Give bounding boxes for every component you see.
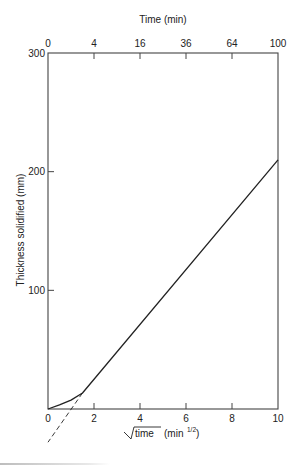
y-axis-title: Thickness solidified (mm) xyxy=(15,174,26,287)
chart: 024681004163664100100200300 Time (min) T… xyxy=(0,0,299,466)
plot-border xyxy=(48,53,278,409)
decorative-bar xyxy=(0,463,110,465)
y-tick-label: 100 xyxy=(28,285,45,296)
top-x-tick-label: 64 xyxy=(226,38,238,49)
x-axis-unit: (min xyxy=(164,428,183,439)
top-x-tick-label: 4 xyxy=(91,38,97,49)
top-x-tick-label: 36 xyxy=(180,38,192,49)
x-tick-label: 6 xyxy=(183,413,189,424)
data-series xyxy=(48,160,278,442)
x-axis-title: time(min1/2) xyxy=(124,426,199,439)
x-axis-unit-exponent: 1/2 xyxy=(187,426,196,433)
top-axis-title: Time (min) xyxy=(139,14,186,25)
y-tick-label: 300 xyxy=(28,48,45,59)
thickness-line xyxy=(48,160,278,409)
x-tick-label: 10 xyxy=(272,413,284,424)
y-tick-label: 200 xyxy=(28,166,45,177)
top-x-tick-label: 100 xyxy=(270,38,287,49)
plot-frame xyxy=(48,53,278,409)
x-axis-unit-close: ) xyxy=(196,428,199,439)
x-tick-label: 4 xyxy=(137,413,143,424)
top-x-tick-label: 0 xyxy=(45,38,51,49)
x-axis-radicand: time xyxy=(135,428,154,439)
x-tick-label: 2 xyxy=(91,413,97,424)
x-tick-label: 0 xyxy=(45,413,51,424)
x-tick-label: 8 xyxy=(229,413,235,424)
top-x-tick-label: 16 xyxy=(134,38,146,49)
extrapolation-line xyxy=(48,393,83,442)
axis-ticks: 024681004163664100100200300 xyxy=(28,38,286,424)
